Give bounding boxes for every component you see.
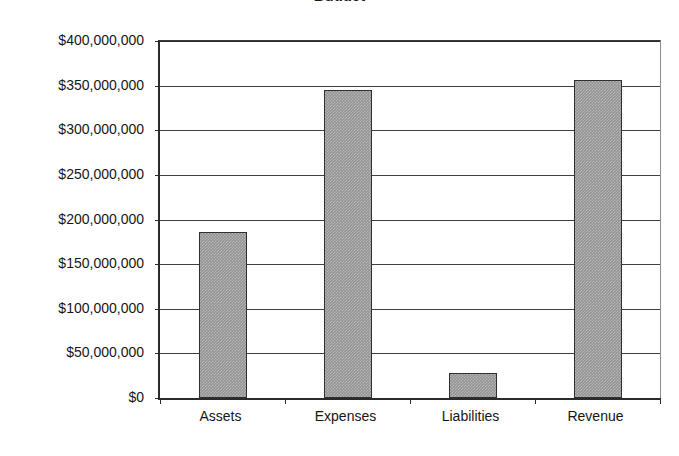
chart-title: Budget — [0, 0, 679, 1]
bar-chart: Budget $0$50,000,000$100,000,000$150,000… — [0, 0, 679, 456]
x-axis-label-liabilities: Liabilities — [408, 406, 533, 426]
bar-assets[interactable] — [199, 232, 247, 398]
x-axis-label-expenses: Expenses — [283, 406, 408, 426]
x-axis-tick — [535, 398, 536, 404]
x-axis-label-assets: Assets — [158, 406, 283, 426]
y-axis-tick-label: $150,000,000 — [0, 256, 144, 270]
bar-expenses[interactable] — [324, 90, 372, 398]
y-axis-tick-label: $350,000,000 — [0, 78, 144, 92]
y-axis-tick-label: $250,000,000 — [0, 167, 144, 181]
bar-liabilities[interactable] — [449, 373, 497, 398]
x-axis-tick — [160, 398, 161, 404]
bar-slot — [285, 41, 410, 398]
y-axis-tick-label: $100,000,000 — [0, 301, 144, 315]
y-axis-tick-label: $50,000,000 — [0, 345, 144, 359]
x-axis-tick — [410, 398, 411, 404]
x-axis-label-revenue: Revenue — [533, 406, 658, 426]
y-axis-tick-label: $0 — [0, 390, 144, 404]
y-axis-tick-label: $400,000,000 — [0, 33, 144, 47]
x-axis-tick — [285, 398, 286, 404]
bar-slot — [160, 41, 285, 398]
y-axis-tick-label: $200,000,000 — [0, 212, 144, 226]
y-axis-tick-label: $300,000,000 — [0, 122, 144, 136]
bar-revenue[interactable] — [574, 80, 622, 398]
x-axis-labels: AssetsExpensesLiabilitiesRevenue — [158, 406, 658, 430]
x-axis-tick — [660, 398, 661, 404]
bar-slot — [410, 41, 535, 398]
bar-slot — [535, 41, 660, 398]
plot-area — [158, 40, 661, 400]
